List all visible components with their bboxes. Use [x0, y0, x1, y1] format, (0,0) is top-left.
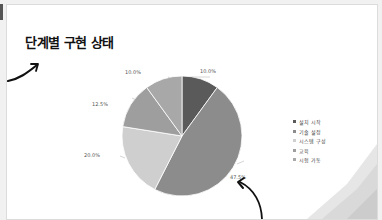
- legend-swatch-icon: [293, 158, 296, 161]
- pie-label-5: 10.0%: [125, 69, 141, 75]
- chart-title: 단계별 구현 상태: [25, 32, 114, 51]
- legend-swatch-icon: [293, 120, 296, 123]
- curved-arrow-icon: [232, 173, 272, 220]
- curved-arrow-icon: [7, 59, 47, 89]
- legend-swatch-icon: [293, 139, 296, 142]
- pie-chart: [120, 74, 244, 198]
- slide-canvas: 단계별 구현 상태 10.0% 47.5% 20.0% 12.5% 10.0% …: [6, 4, 378, 220]
- legend-swatch-icon: [293, 130, 296, 133]
- pie-label-1: 10.0%: [200, 68, 216, 74]
- pie-label-4: 12.5%: [92, 101, 108, 107]
- legend-item[interactable]: 설치 시작: [293, 117, 326, 127]
- pie-label-3: 20.0%: [84, 152, 100, 158]
- legend-swatch-icon: [293, 149, 296, 152]
- decorative-corner: [307, 144, 377, 219]
- legend-label: 기술 설정: [299, 128, 321, 135]
- slide-edge-marker: [0, 4, 3, 20]
- legend-label: 설치 시작: [299, 118, 321, 125]
- legend-item[interactable]: 기술 설정: [293, 127, 326, 137]
